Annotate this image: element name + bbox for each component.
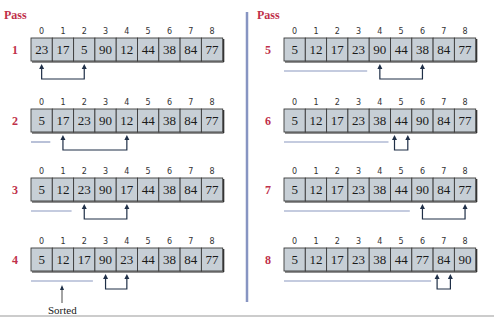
index-label: 3 — [103, 27, 108, 36]
swap-arrowhead-icon — [60, 135, 65, 140]
index-label: 4 — [124, 27, 129, 36]
index-label: 3 — [103, 167, 108, 176]
index-label: 2 — [82, 237, 87, 246]
cell-value: 77 — [206, 182, 220, 197]
pass-number: 1 — [12, 43, 18, 57]
cell-value: 38 — [163, 182, 176, 197]
selection-sort-diagram: Pass Pass 101234567823175901244388477201… — [0, 0, 494, 324]
index-label: 7 — [441, 167, 446, 176]
cell-value: 5 — [291, 182, 298, 197]
cell-value: 90 — [373, 42, 386, 57]
index-label: 5 — [399, 98, 404, 107]
index-label: 5 — [146, 237, 151, 246]
index-label: 8 — [463, 98, 468, 107]
pass-2: 201234567851723901244388477 — [12, 98, 224, 150]
cell-value: 90 — [99, 252, 112, 267]
swap-arrowhead-icon — [124, 135, 129, 140]
index-label: 1 — [60, 167, 65, 176]
cell-value: 77 — [459, 113, 473, 128]
index-label: 6 — [420, 167, 425, 176]
index-label: 1 — [60, 27, 65, 36]
cell-value: 23 — [120, 252, 133, 267]
index-label: 6 — [167, 167, 172, 176]
index-label: 6 — [167, 237, 172, 246]
cell-value: 5 — [291, 113, 298, 128]
index-label: 0 — [292, 98, 297, 107]
cell-value: 23 — [352, 252, 365, 267]
pass-5: 501234567851217239044388477 — [265, 27, 477, 79]
index-label: 8 — [210, 237, 215, 246]
swap-connector — [380, 67, 423, 79]
cell-value: 77 — [459, 42, 473, 57]
index-label: 1 — [60, 98, 65, 107]
pass-1: 101234567823175901244388477 — [12, 27, 224, 79]
index-label: 4 — [124, 98, 129, 107]
cell-value: 90 — [99, 42, 112, 57]
cell-value: 90 — [459, 252, 472, 267]
swap-connector — [422, 207, 465, 219]
cell-value: 23 — [78, 113, 91, 128]
index-label: 8 — [210, 27, 215, 36]
index-label: 7 — [441, 98, 446, 107]
cell-value: 90 — [99, 182, 112, 197]
swap-arrowhead-icon — [82, 204, 87, 209]
pass-number: 8 — [265, 253, 271, 267]
index-label: 2 — [335, 237, 340, 246]
index-label: 5 — [146, 98, 151, 107]
cell-value: 17 — [120, 182, 134, 197]
pass-6: 601234567851217233844908477 — [265, 98, 477, 150]
pass-number: 7 — [265, 183, 271, 197]
index-label: 7 — [441, 237, 446, 246]
index-label: 4 — [377, 98, 382, 107]
index-label: 2 — [335, 98, 340, 107]
index-label: 3 — [356, 237, 361, 246]
index-label: 7 — [188, 167, 193, 176]
cell-value: 12 — [309, 113, 322, 128]
index-label: 0 — [39, 167, 44, 176]
index-label: 5 — [146, 27, 151, 36]
index-label: 5 — [399, 167, 404, 176]
index-label: 3 — [356, 27, 361, 36]
index-label: 4 — [377, 27, 382, 36]
cell-value: 77 — [206, 252, 220, 267]
pass-number: 6 — [265, 114, 271, 128]
cell-value: 23 — [35, 42, 48, 57]
pass-4: 401234567851217902344388477 — [12, 237, 224, 289]
index-label: 1 — [313, 98, 318, 107]
cell-value: 44 — [395, 252, 409, 267]
swap-arrowhead-icon — [448, 274, 453, 279]
cell-value: 84 — [184, 42, 198, 57]
swap-arrowhead-icon — [82, 64, 87, 69]
cell-value: 84 — [437, 252, 451, 267]
cell-value: 84 — [184, 252, 198, 267]
index-label: 7 — [188, 98, 193, 107]
pass-number: 5 — [265, 43, 271, 57]
pass-heading-left: Pass — [4, 8, 27, 22]
cell-value: 77 — [206, 113, 220, 128]
index-label: 6 — [420, 98, 425, 107]
index-label: 6 — [167, 98, 172, 107]
cell-value: 38 — [373, 182, 386, 197]
cell-value: 44 — [142, 182, 156, 197]
cell-value: 84 — [437, 42, 451, 57]
swap-arrowhead-icon — [392, 135, 397, 140]
cell-value: 12 — [309, 252, 322, 267]
sorted-caption-arrowhead-icon — [60, 285, 64, 290]
index-label: 2 — [335, 27, 340, 36]
pass-number: 4 — [12, 253, 18, 267]
index-label: 4 — [377, 167, 382, 176]
cell-value: 44 — [395, 182, 409, 197]
cell-value: 38 — [163, 252, 176, 267]
cell-value: 38 — [163, 113, 176, 128]
index-label: 1 — [313, 27, 318, 36]
cell-value: 38 — [373, 252, 386, 267]
cell-value: 38 — [373, 113, 386, 128]
cell-value: 5 — [291, 252, 298, 267]
index-label: 5 — [146, 167, 151, 176]
index-label: 8 — [210, 167, 215, 176]
cell-value: 38 — [163, 42, 176, 57]
pass-8: 801234567851217233844778490 — [265, 237, 477, 289]
cell-value: 84 — [437, 113, 451, 128]
cell-value: 17 — [331, 42, 345, 57]
index-label: 3 — [356, 98, 361, 107]
